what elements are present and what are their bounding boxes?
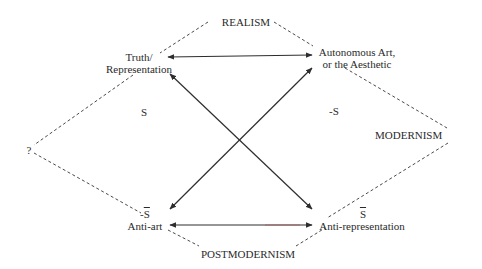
minus-s-text: -S xyxy=(326,106,342,117)
inner-label-s: S xyxy=(138,107,150,118)
postmodernism-text: POSTMODERNISM xyxy=(195,249,301,260)
s-bar-symbol: S xyxy=(360,208,366,220)
question-text: ? xyxy=(24,145,34,156)
corner-truth-line1: Truth/ xyxy=(98,51,180,63)
dashed-line-anti-art-to-postmodernism xyxy=(168,230,199,246)
corner-autonomous-line2: or the Aesthetic xyxy=(312,58,402,70)
corner-anti-repr-label: Anti-representation xyxy=(312,220,412,232)
corner-anti-repr-symbol: S xyxy=(312,208,412,220)
corner-anti-art-label: Anti-art xyxy=(120,220,170,232)
label-realism: REALISM xyxy=(216,17,276,28)
corner-autonomous-line1: Autonomous Art, xyxy=(312,46,402,58)
inner-label-minus-s: -S xyxy=(326,106,342,117)
corner-truth-line2: Representation xyxy=(98,63,180,75)
dashed-line-realism-right xyxy=(274,22,313,46)
dashed-line-question-to-anti-art xyxy=(34,153,141,213)
dashed-line-realism-left xyxy=(160,22,208,53)
arrows xyxy=(168,55,312,225)
dashed-line-top-left-to-question xyxy=(34,75,133,145)
arrow-diagonal-aesthetic-to-anti-art xyxy=(170,68,312,209)
realism-text: REALISM xyxy=(216,17,276,28)
corner-anti-art-symbol: -S xyxy=(120,208,170,220)
corner-autonomous-art: Autonomous Art, or the Aesthetic xyxy=(312,46,402,70)
dashed-line-aesthetic-to-modernism xyxy=(345,68,447,128)
label-modernism: MODERNISM xyxy=(375,130,439,141)
arrow-diagonal-truth-to-anti-repr xyxy=(170,74,312,209)
corner-truth-representation: Truth/ Representation xyxy=(98,51,180,75)
dashed-line-modernism-to-anti-repr xyxy=(327,143,448,218)
s-text: S xyxy=(138,107,150,118)
label-postmodernism: POSTMODERNISM xyxy=(195,249,301,260)
modernism-text: MODERNISM xyxy=(375,130,439,141)
arrow-top-horizontal xyxy=(168,55,312,57)
corner-anti-art: -S Anti-art xyxy=(120,208,170,232)
label-question: ? xyxy=(24,145,34,156)
s-bar-symbol: S xyxy=(144,208,150,220)
corner-anti-representation: S Anti-representation xyxy=(312,208,412,232)
